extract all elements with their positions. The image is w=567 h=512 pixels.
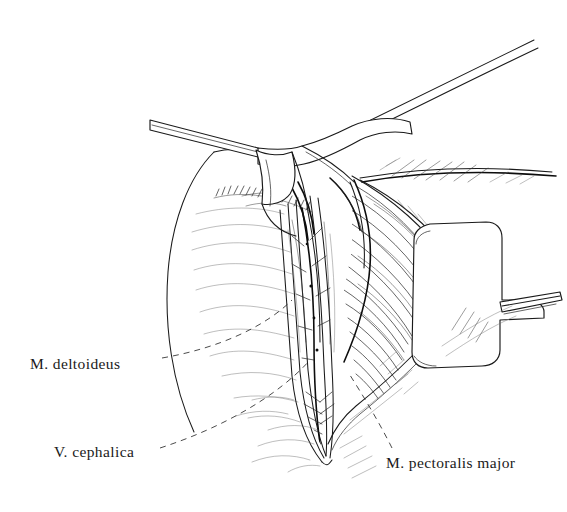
label-v-cephalica: V. cephalica — [54, 444, 134, 460]
wound-interior-shading — [288, 208, 335, 444]
label-m-deltoideus: M. deltoideus — [30, 356, 120, 372]
shoulder-clavicle-contour — [330, 40, 556, 184]
leader-deltoideus — [162, 300, 292, 358]
leader-lines — [160, 300, 392, 448]
leader-pectoralis — [348, 372, 392, 448]
leader-cephalica — [160, 360, 310, 448]
illustration-canvas: .ink { fill:none; stroke:#1a1a1a; stroke… — [0, 0, 567, 512]
right-retractor[interactable] — [412, 222, 562, 368]
anatomical-figure: .ink { fill:none; stroke:#1a1a1a; stroke… — [0, 0, 567, 512]
clavicle-hatching — [380, 158, 534, 184]
surgical-wound — [280, 182, 335, 465]
label-m-pectoralis-major: M. pectoralis major — [386, 455, 515, 471]
